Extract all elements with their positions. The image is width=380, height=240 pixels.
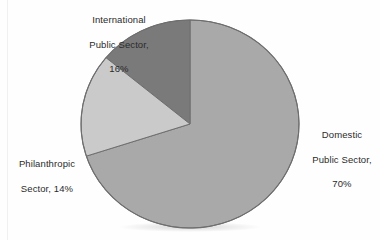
slice-label-philanthropic-line1: Philanthropic (4, 158, 90, 170)
chart-area: International Public Sector, 16% Domesti… (0, 0, 380, 240)
slice-label-philanthropic-line2: Sector, 14% (4, 183, 90, 195)
slice-label-international: International Public Sector, 16% (60, 2, 178, 87)
slice-label-international-value: 16% (60, 63, 178, 75)
slice-label-international-line1: International (60, 14, 178, 26)
slice-label-domestic-value: 70% (303, 178, 380, 190)
pie-chart-figure: International Public Sector, 16% Domesti… (0, 0, 380, 240)
slice-label-philanthropic: Philanthropic Sector, 14% (4, 146, 90, 207)
slice-label-domestic-line2: Public Sector, (303, 154, 380, 166)
slice-label-international-line2: Public Sector, (60, 39, 178, 51)
slice-label-domestic: Domestic Public Sector, 70% (303, 117, 380, 202)
slice-label-domestic-line1: Domestic (303, 129, 380, 141)
